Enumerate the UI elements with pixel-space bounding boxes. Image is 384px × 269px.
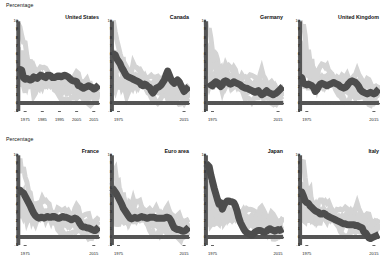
- y-tick-label: 3: [198, 210, 206, 214]
- plot-area: [292, 154, 380, 246]
- y-tick-label: -1: [198, 109, 206, 113]
- x-tick-label: 2015: [85, 118, 103, 122]
- y-tick-label: 4: [292, 68, 300, 72]
- y-tick-label: 6: [198, 186, 206, 190]
- y-tick-label: 2: [198, 219, 206, 223]
- plot-area: [104, 20, 190, 112]
- y-tick-label: 7: [292, 44, 300, 48]
- x-tick-label: 2015: [365, 118, 383, 122]
- y-axis-label: Percentage: [6, 136, 34, 142]
- y-tick-label: -1: [10, 243, 18, 247]
- panel-euro_area: Euro area-101234567891019752015: [104, 148, 190, 264]
- y-tick-label: 2: [104, 219, 112, 223]
- x-tick-label: 2015: [365, 252, 383, 256]
- y-tick-label: 3: [104, 76, 112, 80]
- y-tick-label: 7: [10, 44, 18, 48]
- y-tick-label: 2: [104, 85, 112, 89]
- panel-japan: Japan-101234567891019752015: [198, 148, 284, 264]
- figure-root: PercentageUnited States-1012345678910197…: [0, 0, 384, 269]
- x-tick-label: 1975: [16, 118, 34, 122]
- y-tick-label: 6: [10, 186, 18, 190]
- y-tick-label: 1: [104, 227, 112, 231]
- y-tick-label: 5: [10, 194, 18, 198]
- x-tick-label: 2015: [269, 118, 287, 122]
- y-tick-label: 5: [104, 194, 112, 198]
- x-tick-label: 2015: [269, 252, 287, 256]
- y-tick-label: -1: [104, 243, 112, 247]
- y-tick-label: 6: [10, 52, 18, 56]
- y-tick-label: -1: [198, 243, 206, 247]
- y-tick-label: 5: [198, 60, 206, 64]
- y-tick-label: 8: [292, 170, 300, 174]
- y-tick-label: 2: [292, 219, 300, 223]
- y-tick-label: 10: [292, 153, 300, 157]
- x-tick-label: 2015: [175, 118, 193, 122]
- y-tick-label: 6: [104, 186, 112, 190]
- y-tick-label: 2: [10, 219, 18, 223]
- y-tick-label: 4: [198, 202, 206, 206]
- y-tick-label: 9: [292, 161, 300, 165]
- x-tick-label: 1975: [203, 252, 221, 256]
- y-tick-label: 8: [10, 36, 18, 40]
- y-tick-label: -1: [292, 243, 300, 247]
- x-tick-label: 1975: [16, 252, 34, 256]
- y-tick-label: 1: [198, 227, 206, 231]
- y-tick-label: 1: [10, 93, 18, 97]
- y-tick-label: 4: [104, 202, 112, 206]
- plot-area: [198, 154, 284, 246]
- x-tick-label: 2005: [68, 118, 86, 122]
- y-tick-label: 3: [104, 210, 112, 214]
- y-tick-label: 2: [292, 85, 300, 89]
- plot-area: [292, 20, 380, 112]
- y-tick-label: 5: [198, 194, 206, 198]
- y-tick-label: 1: [292, 227, 300, 231]
- x-tick-label: 1975: [109, 252, 127, 256]
- y-tick-label: 0: [198, 101, 206, 105]
- y-tick-label: 1: [104, 93, 112, 97]
- y-tick-label: -1: [292, 109, 300, 113]
- y-tick-label: 8: [10, 170, 18, 174]
- y-tick-label: 4: [10, 68, 18, 72]
- y-tick-label: 8: [104, 36, 112, 40]
- y-tick-label: 7: [198, 44, 206, 48]
- panel-germany: Germany-101234567891019752015: [198, 14, 284, 130]
- y-tick-label: 9: [10, 161, 18, 165]
- y-tick-label: 5: [104, 60, 112, 64]
- y-tick-label: 10: [292, 19, 300, 23]
- y-tick-label: 8: [198, 170, 206, 174]
- y-tick-label: 7: [292, 178, 300, 182]
- y-tick-label: 3: [292, 210, 300, 214]
- x-tick-label: 1975: [298, 252, 316, 256]
- panel-row-2: PercentageFrance-101234567891019752015Eu…: [0, 134, 384, 268]
- y-tick-label: 2: [198, 85, 206, 89]
- y-tick-label: 6: [292, 52, 300, 56]
- y-tick-label: 9: [10, 27, 18, 31]
- plot-area: [198, 20, 284, 112]
- y-tick-label: 5: [10, 60, 18, 64]
- y-tick-label: -1: [10, 109, 18, 113]
- panel-canada: Canada-101234567891019752015: [104, 14, 190, 130]
- plot-area: [10, 154, 100, 246]
- panel-united_states: United States-10123456789101975198519952…: [10, 14, 100, 130]
- plot-area: [10, 20, 100, 112]
- y-tick-label: 9: [292, 27, 300, 31]
- y-tick-label: 4: [104, 68, 112, 72]
- y-tick-label: -1: [104, 109, 112, 113]
- y-tick-label: 4: [10, 202, 18, 206]
- x-tick-label: 2015: [175, 252, 193, 256]
- y-tick-label: 3: [198, 76, 206, 80]
- y-tick-label: 3: [292, 76, 300, 80]
- y-tick-label: 4: [198, 68, 206, 72]
- y-tick-label: 1: [10, 227, 18, 231]
- y-tick-label: 3: [10, 210, 18, 214]
- y-tick-label: 5: [292, 60, 300, 64]
- y-tick-label: 9: [104, 161, 112, 165]
- y-tick-label: 0: [10, 101, 18, 105]
- y-tick-label: 0: [104, 101, 112, 105]
- y-tick-label: 6: [292, 186, 300, 190]
- panel-united_kingdom: United Kingdom-101234567891019752015: [292, 14, 380, 130]
- y-tick-label: 7: [104, 44, 112, 48]
- y-tick-label: 2: [10, 85, 18, 89]
- x-tick-label: 1975: [203, 118, 221, 122]
- panel-italy: Italy-101234567891019752015: [292, 148, 380, 264]
